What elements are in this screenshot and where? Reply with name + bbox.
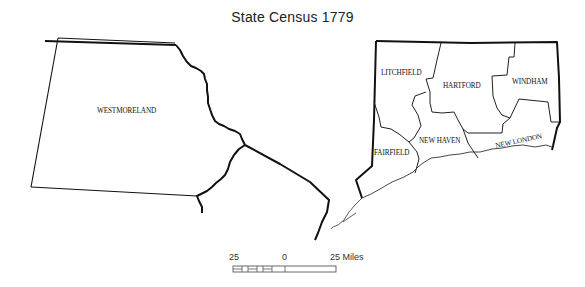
- region-label-fairfield: FAIRFIELD: [374, 149, 409, 157]
- scale-bar: 25 0 25 Miles: [229, 252, 364, 272]
- map-canvas: WESTMORELAND LITCHFIELD HARTFORD WINDHAM…: [0, 0, 585, 287]
- scale-label-zero: 0: [282, 252, 287, 262]
- region-label-litchfield: LITCHFIELD: [381, 69, 422, 77]
- scale-label-right: 25 Miles: [330, 252, 364, 262]
- region-label-westmoreland: WESTMORELAND: [97, 107, 156, 115]
- region-label-new-london: NEW LONDON: [495, 132, 544, 150]
- region-label-windham: WINDHAM: [512, 78, 548, 86]
- region-label-new-haven: NEW HAVEN: [419, 137, 461, 145]
- region-label-hartford: HARTFORD: [443, 82, 481, 90]
- westmoreland-map: WESTMORELAND: [31, 38, 329, 240]
- scale-label-left: 25: [229, 252, 239, 262]
- connecticut-map: LITCHFIELD HARTFORD WINDHAM NEW HAVEN FA…: [331, 41, 560, 229]
